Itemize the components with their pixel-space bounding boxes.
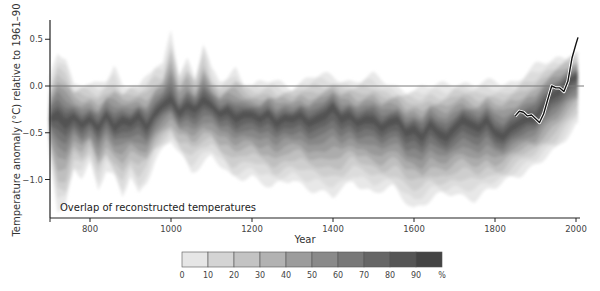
x-tick-label: 1000	[160, 224, 182, 234]
x-tick-label: 800	[82, 224, 98, 234]
legend-tick-label: 40	[281, 271, 291, 280]
legend-tick-label: 20	[229, 271, 239, 280]
y-tick-label: −0.5	[22, 128, 43, 138]
legend-swatch	[208, 252, 234, 267]
x-tick-label: 1600	[403, 224, 425, 234]
reconstruction-density-bands	[50, 30, 579, 213]
legend-tick-label: 30	[255, 271, 265, 280]
legend-swatch	[312, 252, 338, 267]
chart-annotation: Overlap of reconstructed temperatures	[60, 202, 256, 213]
y-axis-title: Temperature anomaly (°C) relative to 196…	[11, 3, 22, 237]
legend-tick-label: 90	[411, 271, 421, 280]
legend-swatch	[182, 252, 208, 267]
x-axis-title: Year	[293, 234, 316, 245]
legend-tick-label: 60	[333, 271, 343, 280]
y-tick-label: 0.5	[29, 34, 43, 44]
density-legend: 0102030405060708090%	[179, 252, 446, 280]
legend-swatch	[338, 252, 364, 267]
x-axis-ticks: 800100012001400160018002000	[50, 218, 587, 234]
legend-tick-label: 80	[385, 271, 395, 280]
legend-swatch	[234, 252, 260, 267]
legend-swatch	[416, 252, 442, 267]
y-axis-ticks: 0.50.0−0.5−1.0	[22, 34, 50, 184]
legend-swatch	[260, 252, 286, 267]
y-tick-label: 0.0	[29, 81, 43, 91]
x-tick-label: 1200	[241, 224, 263, 234]
legend-tick-label: 10	[203, 271, 213, 280]
x-tick-label: 2000	[565, 224, 587, 234]
x-tick-label: 1400	[322, 224, 344, 234]
legend-tick-label: 0	[179, 271, 184, 280]
legend-swatch	[390, 252, 416, 267]
legend-tick-label: 50	[307, 271, 317, 280]
legend-tick-label: 70	[359, 271, 369, 280]
temperature-reconstruction-chart: 0.50.0−0.5−1.0 8001000120014001600180020…	[0, 0, 600, 291]
legend-unit-label: %	[438, 271, 446, 280]
legend-swatch	[364, 252, 390, 267]
y-tick-label: −1.0	[22, 175, 43, 185]
x-tick-label: 1800	[484, 224, 506, 234]
legend-swatch	[286, 252, 312, 267]
